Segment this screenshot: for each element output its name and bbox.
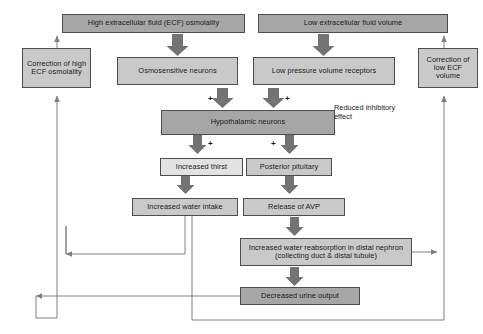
node-correction-low-ecf-volume[interactable]: Correction of low ECF volume [418, 48, 478, 88]
node-increased-water-intake[interactable]: Increased water intake [132, 198, 238, 216]
node-correction-high-ecf-osmolality[interactable]: Correction of high ECF osmolality [22, 48, 91, 88]
plus-sign-hypothalamus-to-thirst: + [208, 140, 213, 148]
node-decreased-urine-output[interactable]: Decreased urine output [240, 287, 360, 305]
node-label: Correction of high ECF osmolality [26, 60, 87, 77]
annotation-text: Reduced inhibitory effect [334, 103, 395, 121]
node-increased-water-reabsorption[interactable]: Increased water reabsorption in distal n… [240, 238, 412, 266]
plus-sign-osmosensitive-to-hypothalamus: + [208, 95, 213, 103]
node-low-ecf-volume[interactable]: Low extracellular fluid volume [258, 14, 448, 33]
plus-sign-hypothalamus-to-pituitary: + [271, 140, 276, 148]
node-label: Increased thirst [176, 163, 227, 171]
annotation-reduced-inhibitory-effect: Reduced inhibitory effect [334, 103, 408, 122]
node-low-pressure-volume-receptors[interactable]: Low pressure volume receptors [253, 57, 395, 85]
node-label: Decreased urine output [261, 292, 339, 300]
node-label: Osmosensitive neurons [138, 67, 216, 75]
node-label: Low pressure volume receptors [272, 67, 377, 75]
node-label: Release of AVP [268, 203, 320, 211]
flowchart-canvas: High extracellular fluid (ECF) osmolalit… [0, 0, 483, 334]
node-release-of-avp[interactable]: Release of AVP [243, 198, 345, 216]
node-label: Increased water reabsorption in distal n… [244, 244, 408, 261]
node-label: Low extracellular fluid volume [304, 19, 402, 27]
node-osmosensitive-neurons[interactable]: Osmosensitive neurons [117, 57, 238, 85]
node-posterior-pituitary[interactable]: Posterior pituitary [246, 158, 332, 176]
node-hypothalamic-neurons[interactable]: Hypothalamic neurons [161, 110, 335, 135]
node-label: Increased water intake [147, 203, 222, 211]
node-increased-thirst[interactable]: Increased thirst [160, 158, 243, 176]
node-label: High extracellular fluid (ECF) osmolalit… [88, 19, 219, 27]
node-label: Hypothalamic neurons [211, 118, 286, 126]
node-label: Posterior pituitary [260, 163, 318, 171]
plus-sign-receptors-to-hypothalamus: + [285, 95, 290, 103]
node-label: Correction of low ECF volume [422, 56, 474, 81]
node-high-ecf-osmolality[interactable]: High extracellular fluid (ECF) osmolalit… [62, 14, 245, 33]
